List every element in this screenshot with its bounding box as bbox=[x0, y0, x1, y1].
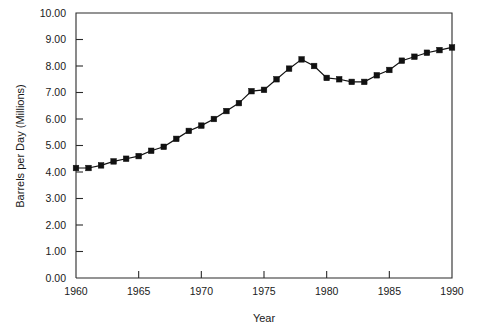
y-tick-label: 7.00 bbox=[46, 86, 67, 98]
y-tick-label: 4.00 bbox=[46, 166, 67, 178]
y-tick-label: 6.00 bbox=[46, 113, 67, 125]
data-point-marker bbox=[173, 136, 179, 142]
data-point-marker bbox=[111, 159, 117, 165]
data-point-marker bbox=[324, 75, 330, 81]
plot-frame bbox=[76, 13, 452, 278]
x-axis-title: Year bbox=[253, 312, 276, 324]
data-point-marker bbox=[449, 45, 455, 51]
y-tick-label: 10.00 bbox=[40, 7, 66, 19]
data-point-marker bbox=[412, 54, 418, 60]
y-tick-label: 8.00 bbox=[46, 60, 67, 72]
data-point-marker bbox=[424, 50, 430, 56]
x-tick-label: 1990 bbox=[440, 285, 464, 297]
data-point-marker bbox=[148, 148, 154, 154]
data-point-marker bbox=[86, 165, 92, 171]
data-point-marker bbox=[387, 67, 393, 73]
y-tick-label: 5.00 bbox=[46, 139, 67, 151]
x-tick-label: 1985 bbox=[378, 285, 402, 297]
data-point-marker bbox=[374, 72, 380, 78]
x-axis-tick-marks bbox=[139, 271, 390, 278]
data-point-marker bbox=[311, 63, 317, 69]
y-axis-tick-marks bbox=[76, 40, 83, 252]
data-point-marker bbox=[186, 128, 192, 134]
data-point-marker bbox=[236, 100, 242, 106]
x-tick-label: 1960 bbox=[64, 285, 88, 297]
data-point-marker bbox=[361, 79, 367, 85]
y-tick-label: 3.00 bbox=[46, 192, 67, 204]
x-axis-tick-labels: 1960196519701975198019851990 bbox=[64, 285, 464, 297]
data-point-marker bbox=[199, 123, 205, 129]
y-axis-title: Barrels per Day (Millions) bbox=[14, 84, 26, 207]
data-point-marker bbox=[249, 88, 255, 94]
y-tick-label: 2.00 bbox=[46, 219, 67, 231]
y-tick-label: 9.00 bbox=[46, 33, 67, 45]
data-point-marker bbox=[336, 76, 342, 82]
data-point-marker bbox=[211, 116, 217, 122]
data-point-marker bbox=[349, 79, 355, 85]
x-tick-label: 1970 bbox=[190, 285, 214, 297]
y-axis-tick-labels: 0.001.002.003.004.005.006.007.008.009.00… bbox=[40, 7, 66, 284]
data-point-marker bbox=[161, 144, 167, 150]
x-tick-label: 1975 bbox=[252, 285, 276, 297]
data-point-marker bbox=[274, 76, 280, 82]
data-point-marker bbox=[98, 163, 104, 169]
data-point-marker bbox=[73, 165, 79, 171]
y-tick-label: 1.00 bbox=[46, 245, 67, 257]
data-point-marker bbox=[136, 153, 142, 159]
chart-figure: 0.001.002.003.004.005.006.007.008.009.00… bbox=[0, 0, 480, 336]
series-line-barrels-per-day bbox=[76, 47, 452, 168]
x-tick-label: 1965 bbox=[127, 285, 151, 297]
data-point-marker bbox=[399, 58, 405, 64]
data-point-marker bbox=[299, 57, 305, 63]
x-tick-label: 1980 bbox=[315, 285, 339, 297]
data-point-marker bbox=[437, 47, 443, 53]
data-point-marker bbox=[123, 156, 129, 162]
y-tick-label: 0.00 bbox=[46, 272, 67, 284]
data-point-marker bbox=[224, 108, 230, 114]
data-point-marker bbox=[261, 87, 267, 93]
data-point-marker bbox=[286, 66, 292, 72]
line-chart: 0.001.002.003.004.005.006.007.008.009.00… bbox=[0, 0, 480, 336]
